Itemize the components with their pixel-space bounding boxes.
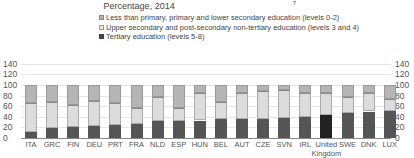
segment-upper-secondary: [384, 99, 396, 111]
segment-lower-secondary: [173, 85, 185, 108]
segment-upper-secondary: [152, 97, 164, 121]
segment-upper-secondary: [131, 108, 143, 124]
segment-upper-secondary: [88, 101, 100, 125]
segment-upper-secondary: [194, 93, 206, 121]
y-tick-label-right: 140: [395, 60, 414, 69]
segment-tertiary: [109, 125, 121, 138]
segment-tertiary: [215, 119, 227, 138]
y-tick-label-right: 120: [395, 70, 414, 79]
segment-lower-secondary: [236, 85, 248, 93]
legend-item-tertiary: Tertiary education (levels 5-8): [99, 32, 359, 42]
legend-swatch-icon: [99, 34, 104, 39]
y-tick-label-right: 20: [395, 123, 414, 132]
y-tick-label-left: 20: [3, 123, 23, 132]
segment-lower-secondary: [342, 85, 354, 97]
legend-label: Upper secondary and post-secondary non-t…: [106, 23, 359, 33]
segment-upper-secondary: [67, 105, 79, 127]
segment-tertiary: [46, 128, 58, 138]
segment-lower-secondary: [278, 85, 290, 90]
segment-tertiary: [257, 119, 269, 138]
segment-tertiary: [342, 113, 354, 138]
segment-lower-secondary: [88, 85, 100, 101]
segment-upper-secondary: [257, 91, 269, 119]
segment-lower-secondary: [25, 85, 37, 103]
segment-lower-secondary: [384, 85, 396, 99]
segment-upper-secondary: [25, 103, 37, 132]
segment-tertiary: [152, 121, 164, 138]
y-tick-label-left: 140: [3, 60, 23, 69]
segment-lower-secondary: [257, 85, 269, 91]
bar-fin: [67, 0, 79, 158]
segment-lower-secondary: [299, 85, 311, 93]
y-tick-label-right: 80: [395, 92, 414, 101]
segment-tertiary: [299, 117, 311, 138]
bar-ita: [25, 0, 37, 158]
chart-legend: Less than primary, primary and lower sec…: [99, 13, 359, 42]
segment-tertiary: [67, 127, 79, 138]
segment-tertiary: [131, 124, 143, 138]
segment-tertiary: [173, 121, 185, 138]
segment-lower-secondary: [320, 85, 332, 93]
y-tick-label-left: 60: [3, 102, 23, 111]
segment-upper-secondary: [173, 108, 185, 121]
segment-lower-secondary: [131, 85, 143, 108]
bar-dnk: [363, 0, 375, 158]
segment-lower-secondary: [152, 85, 164, 97]
legend-item-upper-secondary: Upper secondary and post-secondary non-t…: [99, 23, 359, 33]
segment-lower-secondary: [46, 85, 58, 102]
segment-lower-secondary: [194, 85, 206, 93]
y-tick-label-right: 40: [395, 113, 414, 122]
y-tick-label-left: 100: [3, 81, 23, 90]
segment-upper-secondary: [109, 103, 121, 125]
segment-upper-secondary: [320, 93, 332, 115]
bar-lux: [384, 0, 396, 158]
segment-lower-secondary: [363, 85, 375, 93]
segment-lower-secondary: [109, 85, 121, 103]
segment-tertiary: [236, 119, 248, 138]
segment-tertiary: [278, 118, 290, 138]
segment-upper-secondary: [236, 93, 248, 120]
segment-tertiary: [320, 115, 332, 138]
x-tick-label: LUX: [375, 141, 405, 150]
segment-tertiary: [88, 126, 100, 138]
segment-tertiary: [363, 112, 375, 139]
segment-tertiary: [384, 111, 396, 138]
legend-item-lower-secondary: Less than primary, primary and lower sec…: [99, 13, 359, 23]
segment-tertiary: [25, 132, 37, 138]
y-tick-label-left: 80: [3, 92, 23, 101]
segment-upper-secondary: [299, 93, 311, 117]
segment-tertiary: [194, 121, 206, 138]
legend-swatch-icon: [99, 15, 104, 20]
y-tick-label-right: 100: [395, 81, 414, 90]
segment-lower-secondary: [215, 85, 227, 102]
legend-swatch-icon: [99, 25, 104, 30]
y-tick-label-right: 60: [395, 102, 414, 111]
y-tick-label-left: 120: [3, 70, 23, 79]
legend-label: Tertiary education (levels 5-8): [106, 32, 204, 42]
y-tick-label-left: 40: [3, 113, 23, 122]
segment-upper-secondary: [363, 93, 375, 112]
segment-upper-secondary: [215, 102, 227, 119]
segment-upper-secondary: [46, 102, 58, 128]
bar-grc: [46, 0, 58, 158]
segment-lower-secondary: [67, 85, 79, 105]
legend-label: Less than primary, primary and lower sec…: [106, 13, 339, 23]
segment-upper-secondary: [278, 90, 290, 118]
segment-upper-secondary: [342, 97, 354, 112]
